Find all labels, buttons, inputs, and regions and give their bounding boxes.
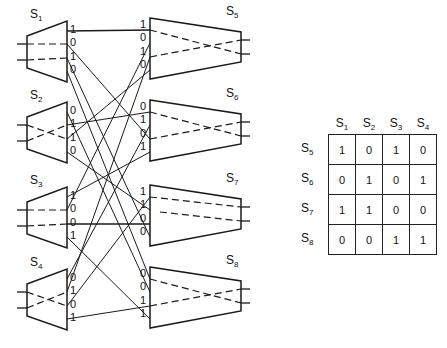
- table-cell: 0: [329, 225, 356, 255]
- switch-label: S5: [226, 4, 239, 20]
- switch-label: S6: [226, 86, 239, 102]
- port-label: 0: [140, 127, 146, 139]
- port-label: 0: [140, 225, 146, 237]
- row-header: S8: [297, 225, 329, 255]
- switch-shape: [27, 21, 67, 82]
- table-header-row: S1 S2 S3 S4: [297, 114, 437, 135]
- table-cell: 0: [410, 195, 437, 225]
- port-label: 1: [140, 113, 146, 125]
- port-label: 1: [140, 185, 146, 197]
- row-header: S7: [297, 195, 329, 225]
- port-label: 0: [140, 100, 146, 112]
- port-label: 1: [140, 140, 146, 152]
- port-label: 1: [70, 23, 76, 35]
- switch-label: S8: [226, 253, 239, 269]
- port-label: 1: [70, 131, 76, 143]
- switch-shape: [27, 102, 67, 163]
- link-line: [67, 112, 150, 125]
- switch-label: S2: [30, 88, 43, 104]
- port-label: 0: [70, 202, 76, 214]
- switch-shape: [27, 269, 67, 330]
- port-label: 0: [70, 271, 76, 283]
- table-cell: 0: [383, 165, 410, 195]
- port-label: 1: [140, 294, 146, 306]
- port-label: 0: [70, 104, 76, 116]
- table-cell: 1: [356, 165, 383, 195]
- table-cell: 1: [329, 135, 356, 165]
- table-cell: 0: [329, 165, 356, 195]
- port-label: 1: [70, 284, 76, 296]
- link-line: [67, 30, 150, 31]
- port-label: 0: [70, 216, 76, 228]
- table-cell: 0: [356, 135, 383, 165]
- table-cell: 1: [410, 165, 437, 195]
- link-line: [67, 43, 150, 210]
- table-row: S5 1 0 1 0: [297, 135, 437, 165]
- port-label: 1: [70, 50, 76, 62]
- connection-table: S1 S2 S3 S4 S5 1 0 1 0 S6 0 1 0 1 S7 1 1…: [297, 114, 437, 255]
- port-label: 1: [70, 189, 76, 201]
- table-row: S7 1 1 0 0: [297, 195, 437, 225]
- port-label: 1: [140, 198, 146, 210]
- port-label: 0: [140, 280, 146, 292]
- port-label: 1: [140, 45, 146, 57]
- table-cell: 1: [383, 225, 410, 255]
- port-label: 1: [140, 307, 146, 319]
- column-header: S1: [329, 114, 356, 135]
- port-label: 0: [70, 63, 76, 75]
- column-header: S3: [383, 114, 410, 135]
- column-header: S2: [356, 114, 383, 135]
- port-label: 1: [70, 311, 76, 323]
- switch-label: S7: [226, 171, 239, 187]
- table-cell: 1: [410, 225, 437, 255]
- port-label: 0: [140, 212, 146, 224]
- table-cell: 1: [383, 135, 410, 165]
- link-line: [67, 306, 150, 319]
- port-label: 1: [70, 229, 76, 241]
- table-corner: [297, 114, 329, 135]
- port-label: 1: [70, 117, 76, 129]
- table-cell: 0: [383, 195, 410, 225]
- switch-label: S4: [30, 255, 43, 271]
- port-label: 0: [140, 58, 146, 70]
- row-header: S6: [297, 165, 329, 195]
- port-label: 0: [70, 144, 76, 156]
- switch-label: S3: [30, 173, 43, 189]
- table-cell: 0: [356, 225, 383, 255]
- switch-shape: [27, 187, 67, 248]
- link-line: [67, 197, 150, 306]
- port-label: 0: [70, 36, 76, 48]
- switch-label: S1: [30, 7, 43, 23]
- link-line: [67, 237, 150, 319]
- table-cell: 0: [410, 135, 437, 165]
- port-label: 0: [70, 298, 76, 310]
- column-header: S4: [410, 114, 437, 135]
- row-header: S5: [297, 135, 329, 165]
- port-label: 1: [140, 18, 146, 30]
- table-cell: 1: [356, 195, 383, 225]
- table-row: S6 0 1 0 1: [297, 165, 437, 195]
- table-row: S8 0 0 1 1: [297, 225, 437, 255]
- link-line: [67, 70, 150, 139]
- port-label: 0: [140, 267, 146, 279]
- table-cell: 1: [329, 195, 356, 225]
- port-label: 0: [140, 31, 146, 43]
